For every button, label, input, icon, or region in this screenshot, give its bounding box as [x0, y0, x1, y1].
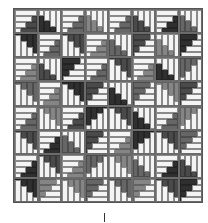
quilt-block [132, 9, 156, 33]
light-strip [191, 10, 197, 27]
light-strip [115, 34, 121, 45]
quilt-block [108, 33, 132, 57]
light-strip [197, 108, 202, 130]
light-strip [97, 113, 103, 129]
light-strip [138, 10, 144, 21]
light-strip [145, 185, 155, 191]
light-strip [121, 34, 127, 51]
quilt-block [14, 154, 38, 178]
light-strip [39, 10, 45, 16]
quilt-block [179, 178, 203, 202]
light-strip [91, 167, 97, 177]
light-strip [74, 131, 80, 148]
quilt-block [155, 130, 179, 154]
light-strip [92, 94, 108, 100]
light-strip [92, 143, 108, 149]
light-strip [145, 88, 155, 94]
light-strip [139, 46, 155, 52]
quilt-block [132, 33, 156, 57]
quilt-block [155, 178, 179, 202]
light-strip [180, 10, 186, 16]
light-strip [162, 58, 168, 69]
light-strip [156, 58, 162, 64]
light-strip [191, 65, 197, 81]
light-strip [138, 107, 144, 118]
light-strip [192, 40, 202, 46]
quilt-block [85, 106, 109, 130]
light-strip [50, 58, 56, 75]
light-strip [40, 197, 61, 202]
light-strip [197, 131, 202, 137]
light-strip [168, 58, 174, 75]
light-strip [185, 71, 191, 81]
quilt-block [61, 130, 85, 154]
light-strip [39, 58, 45, 64]
quilt-block [61, 33, 85, 57]
quilt-block [14, 178, 38, 202]
light-strip [138, 155, 144, 166]
light-strip [44, 58, 50, 69]
light-strip [186, 191, 202, 197]
light-strip [62, 131, 68, 137]
light-strip [98, 137, 108, 143]
quilt-block [38, 178, 62, 202]
light-strip [186, 143, 202, 149]
quilt-block [85, 9, 109, 33]
light-strip [144, 107, 150, 124]
light-strip [109, 82, 115, 88]
quilt-block [85, 130, 109, 154]
quilt-block [61, 154, 85, 178]
quilt-block [14, 33, 38, 57]
light-strip [144, 155, 150, 172]
light-strip [181, 197, 202, 202]
quilt-block [132, 178, 156, 202]
quilt-block [85, 154, 109, 178]
quilt-block [61, 81, 85, 105]
quilt-block [85, 81, 109, 105]
quilt-block [155, 154, 179, 178]
quilt-block [38, 81, 62, 105]
quilt-block [38, 106, 62, 130]
quilt-block [155, 57, 179, 81]
quilt-block [85, 57, 109, 81]
light-strip [92, 191, 108, 197]
quilt-block [179, 106, 203, 130]
quilt-block [132, 130, 156, 154]
quilt-block [179, 81, 203, 105]
light-strip [86, 10, 92, 16]
quilt-block [179, 33, 203, 57]
light-strip [180, 155, 186, 161]
light-strip [98, 185, 108, 191]
quilt-block [38, 130, 62, 154]
quilt-block [14, 130, 38, 154]
quilt-block [14, 106, 38, 130]
quilt-block [38, 9, 62, 33]
light-strip [197, 82, 202, 88]
light-strip [97, 162, 103, 178]
light-strip [197, 34, 202, 40]
light-strip [133, 155, 139, 161]
quilt-block [108, 57, 132, 81]
quilt-block [61, 57, 85, 81]
quilt-block [85, 178, 109, 202]
quilt-block [108, 106, 132, 130]
light-strip [197, 179, 202, 185]
quilt-block [108, 130, 132, 154]
light-strip [74, 64, 84, 70]
light-strip [97, 10, 103, 27]
quilt-block [61, 106, 85, 130]
quilt-block [61, 9, 85, 33]
light-strip [144, 10, 150, 27]
light-strip [145, 40, 155, 46]
light-strip [115, 82, 121, 93]
light-strip [139, 191, 155, 197]
light-strip [168, 34, 174, 51]
light-strip [192, 185, 202, 191]
light-strip [45, 191, 61, 197]
light-strip [134, 197, 155, 202]
light-strip [138, 143, 144, 153]
quilt-block [108, 9, 132, 33]
light-strip [197, 155, 202, 178]
quilt-block [179, 9, 203, 33]
quilt-block [108, 81, 132, 105]
